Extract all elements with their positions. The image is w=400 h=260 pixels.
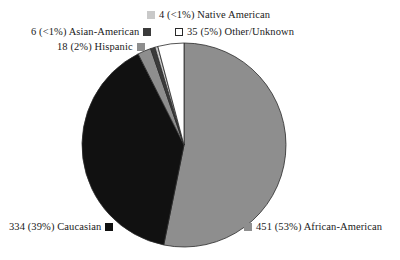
swatch-caucasian — [105, 223, 113, 231]
legend-label-african-american: 451 (53%) African-American — [256, 221, 382, 233]
swatch-native-american — [147, 11, 155, 19]
legend-label-other-unknown: 35 (5%) Other/Unknown — [187, 26, 294, 38]
legend-item-caucasian[interactable]: 334 (39%) Caucasian — [9, 221, 113, 233]
swatch-hispanic — [137, 43, 145, 51]
pie-chart-canvas — [81, 42, 287, 248]
swatch-other-unknown — [175, 28, 183, 36]
legend-label-asian-american: 6 (<1%) Asian-American — [31, 26, 139, 38]
swatch-asian-american — [143, 28, 151, 36]
legend-item-hispanic[interactable]: 18 (2%) Hispanic — [57, 41, 145, 53]
pie-chart-svg — [81, 42, 287, 248]
pie-slice-group — [82, 43, 286, 247]
swatch-african-american — [244, 223, 252, 231]
pie-chart-figure: 4 (<1%) Native American 35 (5%) Other/Un… — [0, 0, 400, 260]
legend-label-hispanic: 18 (2%) Hispanic — [57, 41, 133, 53]
legend-label-caucasian: 334 (39%) Caucasian — [9, 221, 101, 233]
legend-item-african-american[interactable]: 451 (53%) African-American — [244, 221, 382, 233]
legend-item-native-american[interactable]: 4 (<1%) Native American — [147, 9, 270, 21]
legend-item-asian-american[interactable]: 6 (<1%) Asian-American — [31, 26, 151, 38]
legend-label-native-american: 4 (<1%) Native American — [159, 9, 270, 21]
legend-item-other-unknown[interactable]: 35 (5%) Other/Unknown — [175, 26, 294, 38]
